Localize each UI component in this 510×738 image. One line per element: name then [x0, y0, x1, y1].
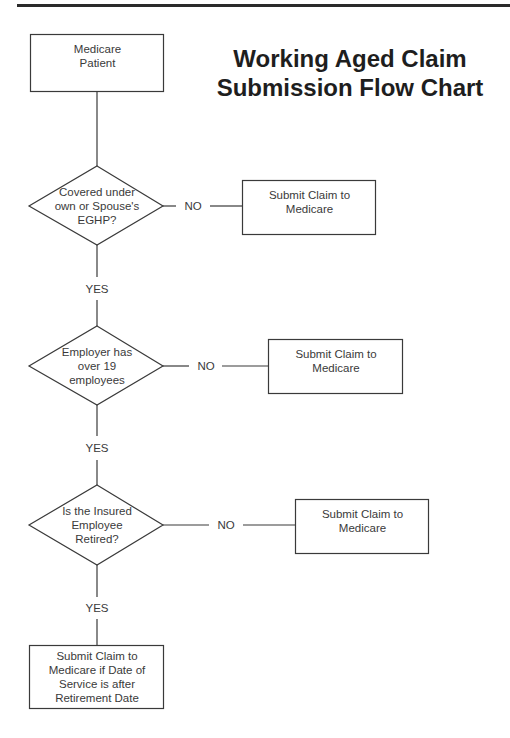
outcome2-node: Submit Claim to Medicare — [269, 340, 403, 382]
final-line: Medicare if Date of — [49, 663, 146, 677]
decision2-no-label: NO — [191, 359, 221, 373]
final-line: Service is after — [59, 677, 135, 691]
page-title: Working Aged Claim Submission Flow Chart — [200, 44, 500, 102]
final-node: Submit Claim to Medicare if Date of Serv… — [30, 646, 164, 708]
decision3-line: Employee — [71, 518, 122, 532]
start-node: Medicare Patient — [31, 35, 164, 77]
decision3-yes-label: YES — [79, 601, 115, 615]
decision3-no-label: NO — [211, 518, 241, 532]
decision1-line: EGHP? — [78, 213, 117, 227]
decision2-line: employees — [69, 373, 125, 387]
decision1-yes-label: YES — [79, 282, 115, 296]
decision1-line: Covered under — [59, 185, 135, 199]
decision3-line: Is the Insured — [62, 504, 132, 518]
decision2-line: Employer has — [62, 345, 132, 359]
final-line: Submit Claim to — [56, 649, 137, 663]
title-line-1: Working Aged Claim — [200, 44, 500, 73]
outcome1-node: Submit Claim to Medicare — [243, 181, 376, 223]
outcome1-line: Submit Claim to — [269, 188, 350, 202]
decision3-node: Is the Insured Employee Retired? — [47, 503, 147, 547]
outcome3-line: Submit Claim to — [322, 507, 403, 521]
outcome3-node: Submit Claim to Medicare — [296, 500, 429, 542]
outcome2-line: Medicare — [312, 361, 359, 375]
decision2-yes-label: YES — [79, 441, 115, 455]
outcome3-line: Medicare — [339, 521, 386, 535]
start-node-line: Patient — [80, 56, 116, 70]
decision1-no-label: NO — [178, 199, 208, 213]
decision2-line: over 19 — [78, 359, 116, 373]
decision1-line: own or Spouse's — [55, 199, 140, 213]
start-node-line: Medicare — [74, 42, 121, 56]
outcome2-line: Submit Claim to — [295, 347, 376, 361]
decision3-line: Retired? — [75, 532, 118, 546]
outcome1-line: Medicare — [286, 202, 333, 216]
decision1-node: Covered under own or Spouse's EGHP? — [47, 184, 147, 228]
title-line-2: Submission Flow Chart — [200, 73, 500, 102]
decision2-node: Employer has over 19 employees — [47, 344, 147, 388]
final-line: Retirement Date — [55, 691, 139, 705]
